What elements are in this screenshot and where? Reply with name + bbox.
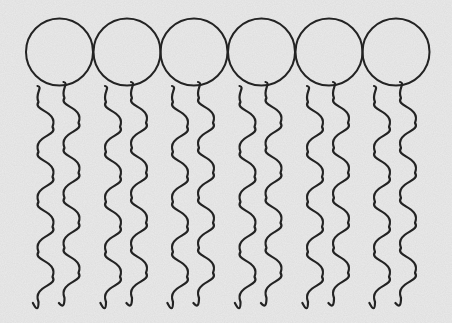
phospholipid-monolayer-diagram [0, 0, 452, 323]
paper-texture [0, 0, 452, 323]
